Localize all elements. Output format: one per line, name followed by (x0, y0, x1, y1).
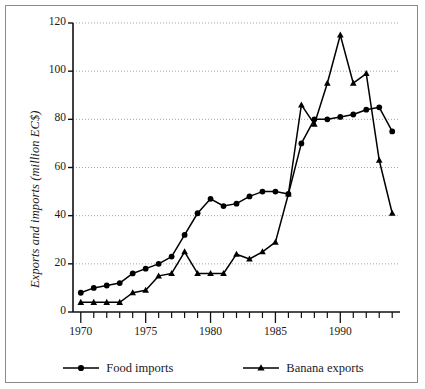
triangle-marker-icon (241, 362, 281, 374)
data-point (337, 114, 343, 120)
data-point (324, 80, 331, 86)
data-point (169, 254, 175, 260)
data-point (104, 283, 110, 289)
y-tick-label: 120 (30, 15, 66, 27)
data-point (363, 107, 369, 113)
data-point (298, 141, 304, 147)
legend-item-banana-exports: Banana exports (241, 361, 363, 376)
y-tick-label: 0 (30, 304, 66, 316)
data-point (181, 248, 188, 254)
data-point (182, 232, 188, 238)
data-point (143, 266, 149, 272)
x-tick-label: 1975 (122, 325, 170, 337)
chart-legend: Food imports Banana exports (0, 357, 425, 379)
data-point (363, 70, 370, 76)
y-tick-label: 40 (30, 208, 66, 220)
data-point (195, 210, 201, 216)
data-point (234, 201, 240, 207)
y-tick-label: 80 (30, 111, 66, 123)
data-point (260, 189, 266, 195)
y-tick-label: 100 (30, 63, 66, 75)
data-point (233, 251, 240, 257)
y-tick-label: 60 (30, 160, 66, 172)
data-point (273, 189, 279, 195)
x-tick-label: 1980 (187, 325, 235, 337)
data-point (376, 157, 383, 163)
legend-item-food-imports: Food imports (61, 361, 173, 376)
series-line-banana-exports (81, 35, 392, 302)
legend-label-food-imports: Food imports (106, 361, 173, 376)
data-point (130, 271, 136, 277)
circle-marker-icon (61, 362, 101, 374)
data-point (376, 104, 382, 110)
data-point (350, 112, 356, 118)
data-point (208, 196, 214, 202)
legend-label-banana-exports: Banana exports (286, 361, 363, 376)
data-point (272, 239, 279, 245)
x-tick-label: 1985 (251, 325, 299, 337)
data-point (117, 280, 123, 286)
data-point (156, 261, 162, 267)
x-tick-label: 1990 (316, 325, 364, 337)
data-point (247, 194, 253, 200)
data-point (389, 128, 395, 134)
x-tick-label: 1970 (57, 325, 105, 337)
data-point (337, 32, 344, 38)
data-point (298, 101, 305, 107)
data-point (78, 290, 84, 296)
data-point (91, 285, 97, 291)
data-point (324, 116, 330, 122)
series-line-food-imports (81, 107, 392, 292)
y-tick-label: 20 (30, 256, 66, 268)
data-point (389, 210, 396, 216)
data-point (221, 203, 227, 209)
